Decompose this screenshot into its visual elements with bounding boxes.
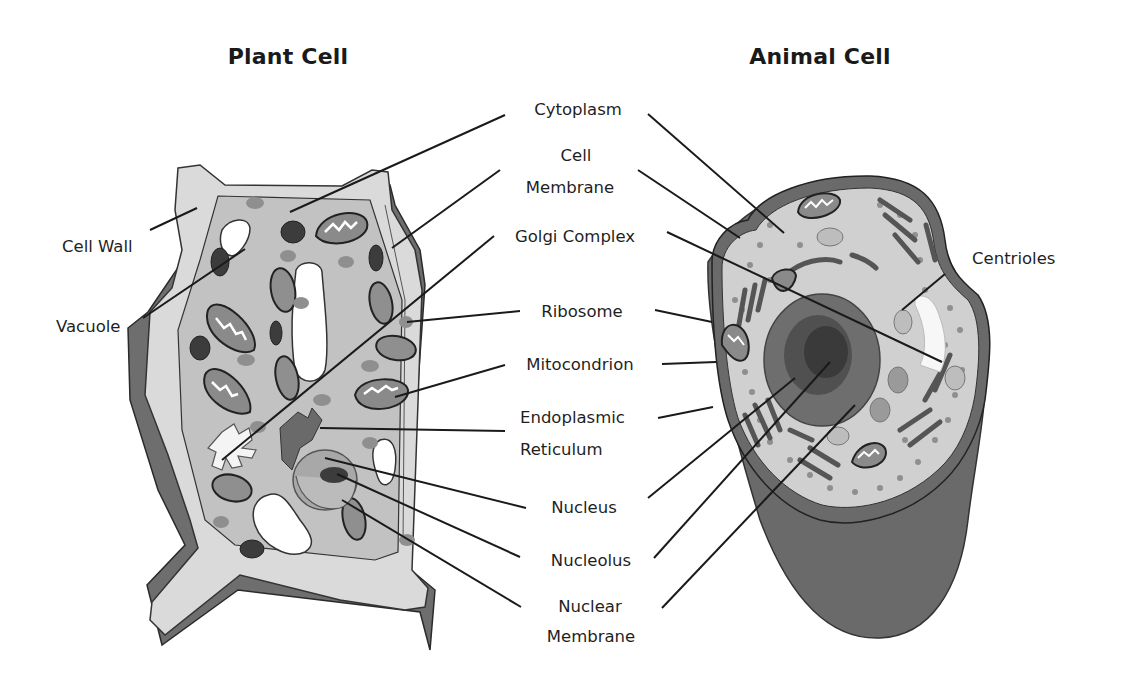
label-cell-wall: Cell Wall bbox=[62, 237, 133, 256]
label-endoplasmic-reticulum-line1: Endoplasmic bbox=[520, 408, 625, 427]
label-nuclear-membrane-line1: Nuclear bbox=[558, 597, 622, 616]
label-golgi-complex: Golgi Complex bbox=[515, 227, 635, 246]
plant-cell-title: Plant Cell bbox=[228, 44, 349, 69]
label-cytoplasm: Cytoplasm bbox=[534, 100, 622, 119]
cell-comparison-diagram: Plant Cell Animal Cell bbox=[0, 0, 1129, 692]
label-vacuole: Vacuole bbox=[56, 317, 120, 336]
plant-cell-illustration bbox=[128, 165, 435, 650]
label-nuclear-membrane-line2: Membrane bbox=[547, 627, 635, 646]
label-cell-membrane-line2: Membrane bbox=[526, 178, 614, 197]
label-nucleolus: Nucleolus bbox=[551, 551, 631, 570]
label-endoplasmic-reticulum-line2: Reticulum bbox=[520, 440, 603, 459]
animal-cell-illustration bbox=[708, 176, 990, 638]
label-ribosome: Ribosome bbox=[541, 302, 623, 321]
label-mitocondrion: Mitocondrion bbox=[526, 355, 633, 374]
label-centrioles: Centrioles bbox=[972, 249, 1055, 268]
label-cell-membrane-line1: Cell bbox=[561, 146, 592, 165]
animal-cell-title: Animal Cell bbox=[749, 44, 891, 69]
label-nucleus: Nucleus bbox=[551, 498, 617, 517]
